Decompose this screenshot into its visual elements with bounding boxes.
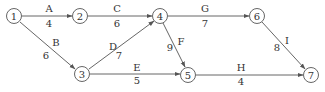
svg-text:5: 5 (185, 70, 191, 81)
edge-E: E 5 (90, 62, 180, 86)
edge-I: I 8 (262, 22, 305, 69)
edge-duration-F: 9 (167, 42, 173, 53)
edge-F: F 9 (163, 23, 185, 67)
node-5: 5 (181, 68, 196, 83)
network-diagram: A 4 B 6 C 6 D 7 E 5 F 9 G 7 H 4 I 8 (0, 0, 325, 92)
edge-label-H: H (237, 62, 246, 73)
edge-label-A: A (44, 3, 53, 14)
edge-label-C: C (113, 3, 121, 14)
svg-text:4: 4 (157, 11, 163, 22)
edge-label-G: G (201, 3, 209, 14)
edge-B: B 6 (20, 22, 75, 69)
edge-duration-B: 6 (43, 50, 49, 61)
edge-C: C 6 (88, 3, 152, 29)
edge-label-F: F (178, 36, 185, 47)
edge-duration-E: 5 (134, 75, 140, 86)
node-7: 7 (304, 68, 319, 83)
svg-text:7: 7 (308, 70, 314, 81)
edge-H: H 4 (196, 62, 303, 87)
edge-label-I: I (285, 35, 289, 46)
edge-duration-C: 6 (114, 18, 120, 29)
svg-text:6: 6 (254, 11, 260, 22)
edge-label-B: B (52, 37, 59, 48)
edge-label-E: E (133, 62, 140, 73)
node-3: 3 (75, 67, 90, 82)
edge-D: D 7 (89, 21, 154, 69)
node-6: 6 (250, 9, 265, 24)
edge-duration-D: 7 (116, 50, 122, 61)
edge-duration-I: 8 (274, 42, 280, 53)
node-2: 2 (73, 9, 88, 24)
svg-text:1: 1 (11, 11, 17, 22)
svg-text:3: 3 (79, 69, 85, 80)
edge-G: G 7 (168, 3, 249, 29)
edge-A: A 4 (22, 3, 72, 29)
edge-duration-H: 4 (238, 76, 244, 87)
edge-duration-A: 4 (46, 18, 52, 29)
edge-duration-G: 7 (202, 18, 208, 29)
node-1: 1 (7, 9, 22, 24)
node-4: 4 (153, 9, 168, 24)
svg-text:2: 2 (77, 11, 83, 22)
